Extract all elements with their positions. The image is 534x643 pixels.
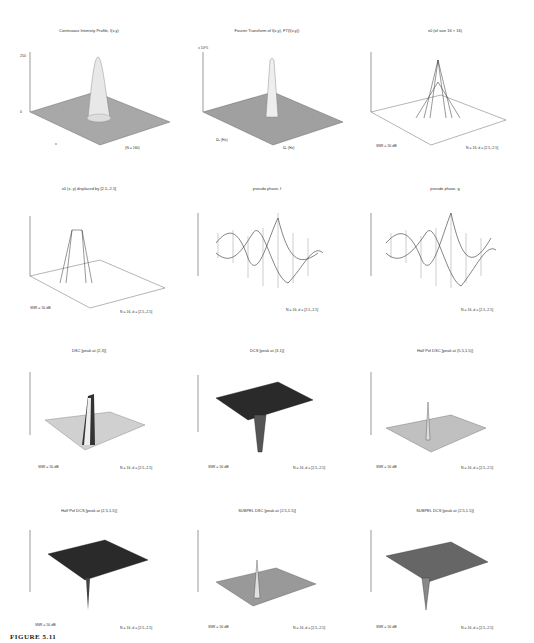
surface-mesh: [356, 0, 534, 160]
plot-pseudo-phase-g: pseudo phase, g N = 16, d = [2.5,-2.5]: [356, 158, 534, 318]
plot-pseudo-phase-f: pseudo phase, f N = 16, d = [2.5,-2.5]: [178, 158, 356, 318]
plot-dsc: DSC [peak at (2,3)] SNR = 50 dB N = 16, …: [0, 320, 178, 480]
surface-mesh: [178, 158, 356, 318]
plot-subpel-dcs: SUBPEL DCS [peak at (2.5,1.5)] SNR = 50 …: [356, 480, 534, 640]
surface-spike-solid: [178, 0, 356, 160]
plot-dcs: DCS [peak at (3,1)] SNR = 50 dB N = 16, …: [178, 320, 356, 480]
surface-shaded-dark: [0, 480, 178, 640]
plot-half-pel-dcs: Half Pel DCS [peak at (2,5,1,5)] SNR = 5…: [0, 480, 178, 640]
surface-shaded: [356, 320, 534, 480]
surface-gaussian-solid: [0, 0, 178, 160]
surface-shaded: [178, 480, 356, 640]
plot-fourier-transform: Fourier Transform of I(x,y), FT(I(x,y)) …: [178, 0, 356, 160]
plot-x0: x0 (of size 16 × 16) SNR = 50 dB N = 16,…: [356, 0, 534, 160]
surface-shaded: [0, 320, 178, 480]
figure-caption: FIGURE 5.11: [10, 633, 56, 641]
surface-shaded-dark: [178, 320, 356, 480]
plot-x0-displaced: x0 (x, y) displaced by [2.5,-2.5] SNR = …: [0, 158, 178, 318]
plot-half-pel-dsc: Half Pel DSC [peak at (5,5,1,5)] SNR = 5…: [356, 320, 534, 480]
plot-subpel-dsc: SUBPEL DSC [peak at (2.5,1.5)] SNR = 50 …: [178, 480, 356, 640]
plot-continuous-intensity: Continuous Intensity Profile, I(x,y) 250…: [0, 0, 178, 160]
surface-mesh: [356, 158, 534, 318]
surface-mesh: [0, 158, 178, 318]
surface-shaded: [356, 480, 534, 640]
